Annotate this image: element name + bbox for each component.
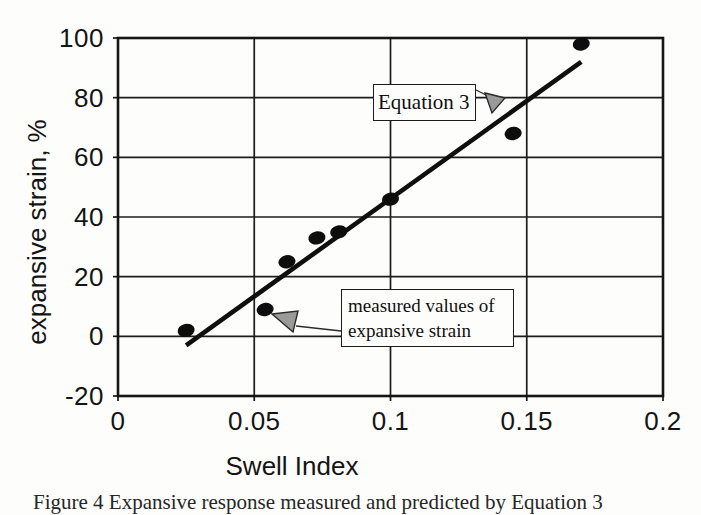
data-point [503, 125, 523, 141]
x-axis-title: Swell Index [226, 451, 359, 482]
y-tick-label: -20 [0, 381, 104, 412]
data-point [307, 230, 327, 246]
x-tick-label: 0.15 [500, 406, 553, 437]
x-tick-label: 0.2 [644, 406, 682, 437]
annotation-equation-3-label: Equation 3 [378, 90, 470, 115]
measured-values-arrowhead [272, 311, 298, 332]
annotation-box-measured-values: measured values of expansive strain [341, 289, 514, 347]
y-tick-label: 100 [0, 23, 104, 54]
annotation-measured-values-line2: expansive strain [348, 318, 513, 343]
data-point [329, 224, 349, 240]
data-point [255, 301, 275, 317]
annotation-measured-values-line1: measured values of [348, 293, 513, 318]
x-tick-label: 0 [111, 406, 126, 437]
equation-3-arrowhead [485, 93, 505, 113]
measured-values-leader-line [296, 326, 341, 331]
figure-caption-clipped: Figure 4 Expansive response measured and… [33, 490, 603, 515]
annotation-box-equation-3: Equation 3 [373, 84, 476, 121]
x-tick-label: 0.1 [372, 406, 410, 437]
x-tick-label: 0.05 [228, 406, 281, 437]
y-axis-title: expansive strain, % [22, 119, 53, 344]
y-tick-label: 80 [0, 82, 104, 113]
